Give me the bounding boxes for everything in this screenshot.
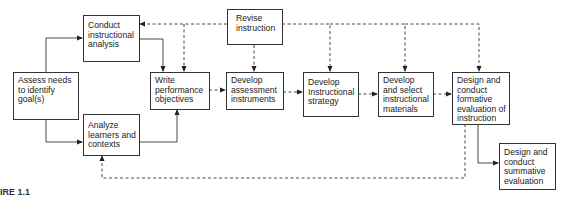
- edge-conduct-write: [139, 39, 163, 71]
- node-label: Analyze learners and contexts: [88, 120, 136, 149]
- node-label: Develop assessment instruments: [231, 75, 277, 104]
- node-label: Write performance objectives: [155, 75, 203, 104]
- edge-formative-analyze: [102, 124, 465, 178]
- node-assess-needs: Assess needs to identify goal(s): [13, 72, 79, 120]
- edge-revise-strategy: [282, 24, 330, 71]
- node-label: Revise instruction: [236, 13, 275, 33]
- figure-label: IRE 1.1: [0, 187, 30, 197]
- edge-assess-analyze: [46, 119, 82, 142]
- node-label: Assess needs to identify goal(s): [18, 75, 72, 104]
- node-label: Design and conduct summative evaluation: [504, 147, 547, 186]
- node-write-objectives: Write performance objectives: [150, 72, 210, 110]
- node-label: Develop Instructional strategy: [308, 77, 354, 106]
- node-assessment-instruments: Develop assessment instruments: [226, 72, 284, 110]
- node-revise-instruction: Revise instruction: [227, 9, 283, 45]
- node-instructional-strategy: Develop Instructional strategy: [303, 72, 359, 117]
- edge-formative-summative: [478, 124, 498, 163]
- node-instructional-materials: Develop and select instructional materia…: [378, 72, 434, 117]
- node-formative-evaluation: Design and conduct formative evaluation …: [452, 72, 510, 125]
- node-analyze-learners: Analyze learners and contexts: [83, 114, 140, 156]
- node-label: Design and conduct formative evaluation …: [457, 75, 506, 123]
- node-conduct-analysis: Conduct instructional analysis: [83, 15, 140, 62]
- edge-revise-formative: [405, 24, 479, 71]
- node-label: Conduct instructional analysis: [88, 20, 134, 49]
- edge-revise-materials: [330, 24, 405, 71]
- edge-analyze-write: [139, 110, 177, 142]
- edge-assess-conduct: [46, 38, 82, 72]
- node-summative-evaluation: Design and conduct summative evaluation: [499, 143, 556, 190]
- node-label: Develop and select instructional materia…: [383, 75, 429, 114]
